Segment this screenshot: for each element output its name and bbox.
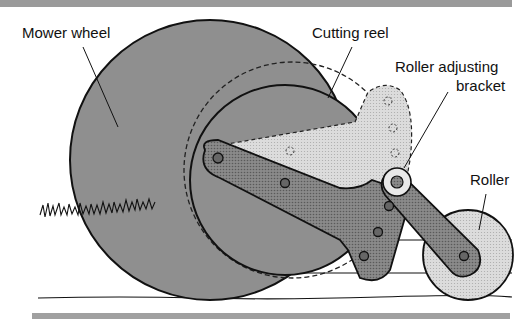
bracket-pivot bbox=[391, 176, 403, 188]
label-roller-bracket-2: bracket bbox=[456, 77, 506, 94]
leader-cutting-reel bbox=[328, 47, 352, 98]
label-roller: Roller bbox=[470, 171, 509, 188]
arm-hole bbox=[460, 252, 469, 261]
ground-line-lower bbox=[38, 296, 512, 299]
arm-hole bbox=[385, 202, 394, 211]
arm-hole bbox=[360, 252, 369, 261]
mower-diagram: Mower wheel Cutting reel Roller adjustin… bbox=[0, 0, 531, 328]
arm-hole bbox=[281, 179, 290, 188]
arm-hole bbox=[213, 153, 223, 163]
label-cutting-reel: Cutting reel bbox=[312, 24, 389, 41]
label-roller-bracket-1: Roller adjusting bbox=[395, 58, 498, 75]
arm-hole bbox=[374, 228, 383, 237]
top-band bbox=[0, 0, 512, 7]
bottom-band bbox=[32, 313, 510, 319]
label-mower-wheel: Mower wheel bbox=[22, 24, 110, 41]
